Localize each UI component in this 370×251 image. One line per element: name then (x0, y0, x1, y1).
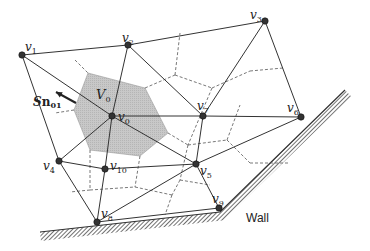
label-v5: v5 (200, 164, 212, 180)
label-v10: v10 (110, 159, 127, 175)
dual-edge (135, 156, 140, 187)
dual-edge (168, 133, 188, 145)
dual-edge (250, 68, 283, 71)
label-v1: v1 (25, 40, 37, 56)
node-v10 (102, 166, 108, 172)
dual-edge (145, 75, 175, 88)
normal-vector: Sn01 (33, 92, 76, 110)
node-v8 (94, 219, 100, 225)
label-v4: v4 (43, 159, 55, 175)
node-v0 (109, 113, 115, 119)
mesh-edge-v7-v5 (196, 116, 203, 164)
node-v3 (262, 18, 268, 24)
dual-edge (227, 105, 240, 140)
normal-label: Sn01 (33, 95, 62, 110)
dual-edge (165, 195, 172, 215)
dual-edge (227, 140, 250, 163)
dual-edge (135, 187, 172, 195)
mesh-edge-v4-v10 (59, 161, 105, 169)
dual-edge (175, 33, 180, 75)
node-v5 (193, 161, 199, 167)
mesh-diagram: Wall Sn01 v0v1v2v3v4v5v6v7v8v9v10V0 (0, 0, 370, 251)
dual-edge (70, 190, 90, 192)
label-v6: v6 (287, 101, 299, 117)
mesh-edge-v2-v3 (128, 21, 265, 45)
dual-edge (55, 110, 74, 113)
dual-edge (188, 140, 227, 145)
dual-edge (180, 145, 188, 180)
label-v2: v2 (122, 31, 134, 47)
dual-edge (90, 187, 135, 190)
label-v3: v3 (250, 8, 262, 24)
mesh-edge-v7-v6 (203, 116, 301, 117)
mesh-edge-v4-v8 (59, 161, 97, 222)
wall-label: Wall (246, 211, 269, 225)
mesh-edge-v1-v2 (22, 45, 128, 55)
label-v8: v8 (101, 207, 113, 223)
label-v7: v7 (197, 99, 209, 115)
mesh-edge-v3-v7 (203, 21, 265, 116)
node-v4 (56, 158, 62, 164)
dual-edge (175, 75, 212, 88)
dual-edge (75, 60, 88, 73)
dual-edge (172, 180, 180, 195)
label-v9: v9 (212, 192, 224, 208)
